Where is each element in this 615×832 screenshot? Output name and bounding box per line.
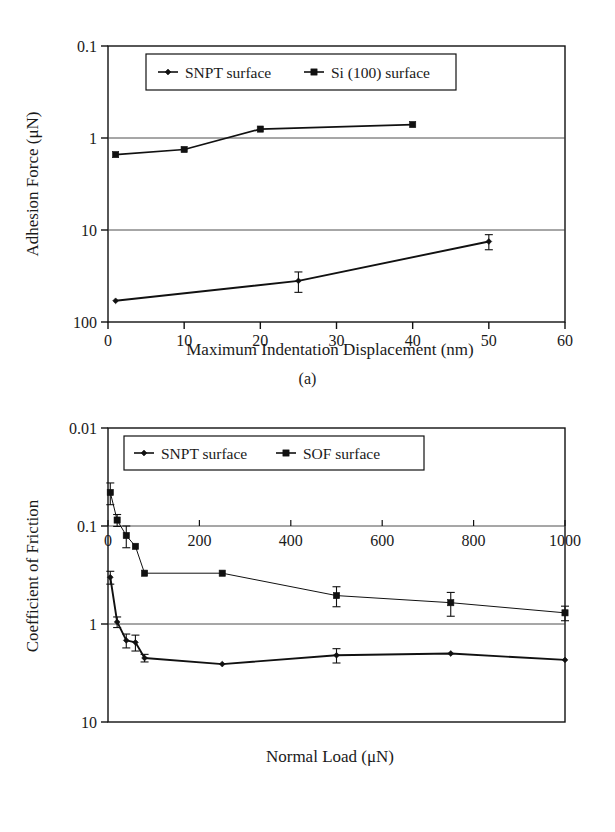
data-point-marker <box>114 517 120 523</box>
x-tick-label: 600 <box>370 532 394 549</box>
y-tick-label: 1 <box>89 616 97 633</box>
data-point-marker <box>219 661 225 667</box>
chart-b-canvas: 1010.10.0102004006008001000SNPT surfaceS… <box>0 400 615 800</box>
x-tick-label: 0 <box>104 332 112 349</box>
legend-label: SOF surface <box>303 445 380 462</box>
x-tick-label: 0 <box>104 532 112 549</box>
y-axis: 1001010.1 <box>73 38 108 331</box>
legend-marker-square <box>283 450 289 456</box>
chart-panel-a: 1001010.10102030405060SNPT surfaceSi (10… <box>0 0 615 400</box>
data-point-marker <box>123 532 129 538</box>
y-tick-label: 0.01 <box>69 420 97 437</box>
y-axis-title: Adhesion Force (μN) <box>23 111 42 256</box>
data-series <box>113 121 416 157</box>
legend-marker-square <box>311 69 317 75</box>
data-point-marker <box>132 543 138 549</box>
data-point-marker <box>296 278 302 284</box>
data-point-marker <box>141 570 147 576</box>
data-point-marker <box>410 121 416 127</box>
data-point-marker <box>181 146 187 152</box>
y-tick-label: 100 <box>73 314 97 331</box>
y-tick-label: 0.1 <box>77 518 97 535</box>
y-tick-label: 0.1 <box>77 38 97 55</box>
data-point-marker <box>113 298 119 304</box>
legend-label: SNPT surface <box>185 64 271 81</box>
y-axis: 1010.10.01 <box>69 420 108 731</box>
data-point-marker <box>219 570 225 576</box>
x-tick-label: 50 <box>481 332 497 349</box>
chart-legend: SNPT surfaceSOF surface <box>124 436 424 470</box>
gridlines <box>108 138 565 230</box>
y-axis-title: Coefficient of Friction <box>23 499 42 652</box>
data-point-marker <box>562 657 568 663</box>
figure-container: 1001010.10102030405060SNPT surfaceSi (10… <box>0 0 615 832</box>
x-tick-label: 200 <box>187 532 211 549</box>
data-point-marker <box>562 610 568 616</box>
data-point-marker <box>448 651 454 657</box>
data-point-marker <box>448 600 454 606</box>
x-axis-title: Normal Load (μN) <box>266 747 394 766</box>
chart-panel-b: 1010.10.0102004006008001000SNPT surfaceS… <box>0 400 615 832</box>
data-series <box>106 483 569 621</box>
plot-frame <box>108 428 565 722</box>
x-tick-label: 400 <box>279 532 303 549</box>
x-axis-title: Maximum Indentation Displacement (nm) <box>186 340 474 359</box>
y-tick-label: 1 <box>89 130 97 147</box>
y-tick-label: 10 <box>81 222 97 239</box>
data-point-marker <box>334 652 340 658</box>
series-line <box>116 125 413 155</box>
data-point-marker <box>107 489 113 495</box>
panel-a-caption: (a) <box>0 370 615 388</box>
x-axis: 02004006008001000 <box>104 520 581 549</box>
data-series <box>106 571 568 667</box>
data-series <box>113 235 493 304</box>
series-line <box>110 577 565 664</box>
x-tick-label: 1000 <box>549 532 581 549</box>
legend-label: SNPT surface <box>161 445 247 462</box>
data-point-marker <box>113 152 119 158</box>
x-tick-label: 60 <box>557 332 573 349</box>
data-point-marker <box>333 592 339 598</box>
y-tick-label: 10 <box>81 714 97 731</box>
data-point-marker <box>257 126 263 132</box>
legend-label: Si (100) surface <box>331 64 430 82</box>
chart-legend: SNPT surfaceSi (100) surface <box>146 54 456 90</box>
gridlines <box>108 526 565 624</box>
chart-a-canvas: 1001010.10102030405060SNPT surfaceSi (10… <box>0 0 615 400</box>
data-point-marker <box>486 239 492 245</box>
x-tick-label: 800 <box>462 532 486 549</box>
